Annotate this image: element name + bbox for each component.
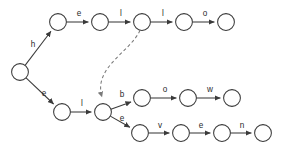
graph-node[interactable]	[173, 125, 190, 142]
graph-node[interactable]	[255, 125, 272, 142]
graph-node[interactable]	[134, 90, 151, 107]
node-circle[interactable]	[176, 14, 193, 31]
edge-label: o	[163, 85, 168, 94]
graph-node[interactable]	[134, 14, 151, 31]
node-circle[interactable]	[12, 64, 29, 81]
node-circle[interactable]	[173, 125, 190, 142]
transition-edge	[111, 102, 131, 109]
node-circle[interactable]	[134, 90, 151, 107]
transition-edge	[25, 31, 51, 65]
graph-node[interactable]	[12, 64, 29, 81]
edge-label: b	[120, 90, 125, 99]
edge-label: o	[203, 9, 208, 18]
diagram-canvas: helloelboweven	[0, 0, 285, 152]
node-circle[interactable]	[92, 14, 109, 31]
edge-label: e	[199, 121, 204, 130]
node-circle[interactable]	[255, 125, 272, 142]
node-circle[interactable]	[218, 14, 235, 31]
edge-label: e	[120, 114, 125, 123]
node-circle[interactable]	[224, 90, 241, 107]
graph-node[interactable]	[132, 125, 149, 142]
edge-label: h	[31, 40, 36, 49]
edge-label: l	[120, 9, 122, 18]
edge-label: l	[162, 9, 164, 18]
graph-node[interactable]	[50, 14, 67, 31]
graph-node[interactable]	[180, 90, 197, 107]
transition-edge	[26, 78, 54, 104]
node-circle[interactable]	[134, 14, 151, 31]
edge-label: w	[206, 85, 213, 94]
node-circle[interactable]	[180, 90, 197, 107]
graph-node[interactable]	[54, 104, 71, 121]
graph-node[interactable]	[176, 14, 193, 31]
edge-label: e	[42, 89, 47, 98]
node-circle[interactable]	[50, 14, 67, 31]
graph-node[interactable]	[95, 104, 112, 121]
edge-label: v	[158, 121, 163, 130]
node-circle[interactable]	[214, 125, 231, 142]
node-circle[interactable]	[132, 125, 149, 142]
trie-graph: helloelboweven	[0, 0, 285, 152]
edge-label: l	[81, 99, 83, 108]
edge-label: n	[240, 121, 245, 130]
graph-node[interactable]	[224, 90, 241, 107]
graph-node[interactable]	[92, 14, 109, 31]
edge-label: e	[77, 9, 82, 18]
graph-node[interactable]	[214, 125, 231, 142]
nodes-layer	[12, 14, 272, 142]
node-circle[interactable]	[54, 104, 71, 121]
graph-node[interactable]	[218, 14, 235, 31]
node-circle[interactable]	[95, 104, 112, 121]
suffix-link-edge	[101, 30, 140, 97]
